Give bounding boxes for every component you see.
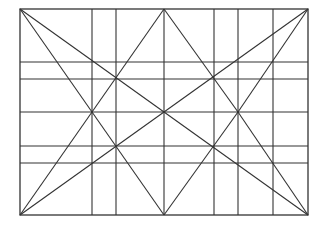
diagonal-line <box>92 9 164 112</box>
diagonal-line <box>20 9 92 112</box>
grid-diagram <box>0 0 325 225</box>
diagonal-line <box>164 9 238 112</box>
